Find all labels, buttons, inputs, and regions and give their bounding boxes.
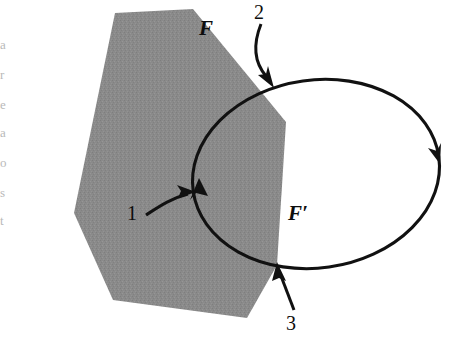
margin-text-fragment: r — [0, 68, 7, 81]
margin-text-fragment: s — [0, 186, 7, 199]
margin-text-fragment: o — [0, 156, 7, 169]
callout-2-shaft — [256, 24, 266, 76]
polygon-F — [74, 9, 286, 318]
callout-3-shaft — [281, 276, 294, 310]
callout-2-arrow — [256, 24, 274, 88]
margin-text-fragment: a — [0, 126, 7, 139]
margin-text-fragment: a — [0, 38, 7, 51]
margin-text-fragment: e — [0, 98, 7, 111]
label-callout-1: 1 — [127, 203, 137, 223]
polygon-F-group — [74, 9, 286, 318]
label-region-F-prime: F′ — [288, 203, 308, 224]
label-callout-3: 3 — [286, 313, 296, 333]
margin-text-fragment: t — [0, 214, 7, 227]
label-region-F: F — [199, 18, 213, 39]
arrowhead-right-orientation — [428, 143, 441, 164]
figure-container: F F′ 1 2 3 areaost — [0, 0, 461, 345]
figure-canvas — [0, 0, 461, 345]
label-callout-2: 2 — [254, 2, 264, 22]
